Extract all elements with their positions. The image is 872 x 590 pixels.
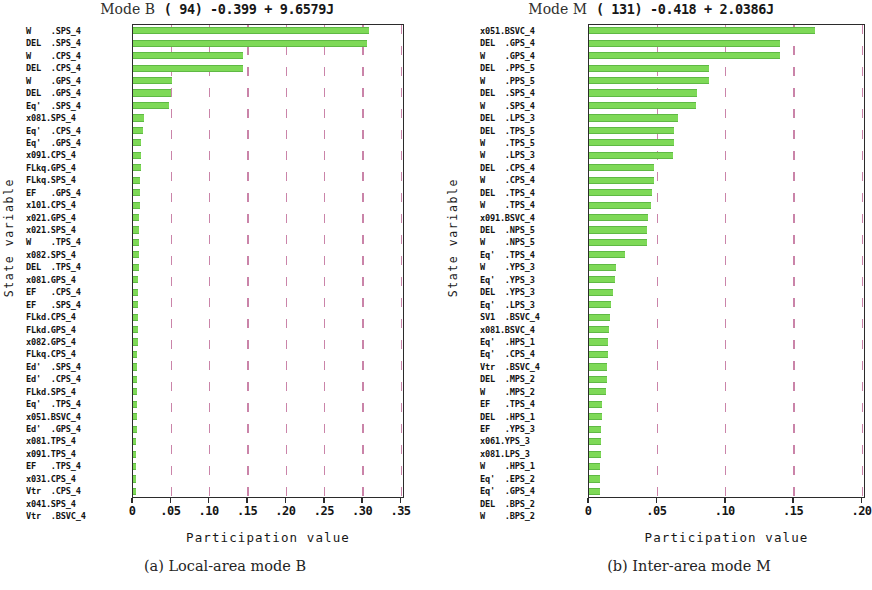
- y-axis-tick-label: x101.CPS_4: [26, 199, 128, 211]
- bar: [133, 451, 136, 458]
- y-axis-tick-label: x041.SPS_4: [26, 498, 128, 510]
- y-axis-tick-label: FLkq.SPS_4: [26, 174, 128, 186]
- bar: [133, 114, 144, 121]
- y-axis-tick-label: DEL .GPS_4: [480, 37, 584, 49]
- y-axis-tick-label: DEL .SPS_4: [480, 87, 584, 99]
- bar: [133, 52, 243, 59]
- bar: [133, 226, 139, 233]
- plot-title-eigenvalue-b: ( 131) -0.418 + 2.0386J: [596, 1, 774, 17]
- x-axis-tick-label: .20: [851, 504, 871, 518]
- x-axis-tick: [792, 498, 794, 503]
- y-axis-tick-label: Vtr .BSVC_4: [26, 510, 128, 522]
- plot-area-a: [132, 24, 404, 498]
- y-axis-tick-label: DEL .TPS_4: [26, 261, 128, 273]
- bar: [133, 301, 138, 308]
- y-axis-tick-label: Eq' .TPS_4: [480, 249, 584, 261]
- bar: [589, 139, 674, 146]
- x-axis-tick: [361, 498, 363, 503]
- y-axis-tick-label: DEL .CPS_4: [26, 62, 128, 74]
- y-axis-tick-label: W .TPS_4: [480, 199, 584, 211]
- bar: [133, 413, 137, 420]
- y-axis-tick-label: x082.SPS_4: [26, 249, 128, 261]
- y-axis-tick-label: Eq' .CPS_4: [26, 125, 128, 137]
- x-axis-title-b: Participation value: [588, 530, 865, 545]
- x-axis-tick-label: .15: [783, 504, 803, 518]
- bar: [133, 276, 138, 283]
- y-axis-tick-label: FLkd.GPS_4: [26, 324, 128, 336]
- y-axis-tick-label: Eq' .CPS_4: [480, 348, 584, 360]
- y-axis-tick-label: W .GPS_4: [480, 50, 584, 62]
- bar: [133, 251, 139, 258]
- x-axis-tick: [131, 498, 133, 503]
- bar: [589, 77, 709, 84]
- y-axis-tick-label: EF .TPS_4: [480, 398, 584, 410]
- x-axis-tick: [861, 498, 863, 503]
- y-axis-tick-label: FLkq.GPS_4: [26, 162, 128, 174]
- bar: [589, 89, 697, 96]
- y-axis-tick-label: W .LPS_3: [480, 149, 584, 161]
- plot-title-mode-b: Mode M: [528, 1, 587, 17]
- y-axis-tick-label: W .TPS_4: [26, 236, 128, 248]
- y-axis-tick-label: DEL .SPS_4: [26, 37, 128, 49]
- y-axis-tick-label: W .TPS_5: [480, 137, 584, 149]
- y-axis-tick-label: EF .SPS_4: [26, 299, 128, 311]
- panel-inter-area-mode-m: Mode M ( 131) -0.418 + 2.0386J State var…: [434, 0, 868, 590]
- y-axis-tick-label: Ed' .SPS_4: [26, 361, 128, 373]
- y-axis-tick-label: W .SPS_4: [480, 100, 584, 112]
- bar: [589, 164, 654, 171]
- y-axis-tick-label: Ed' .CPS_4: [26, 373, 128, 385]
- y-axis-tick-label: EF .TPS_4: [26, 460, 128, 472]
- bars-b: [589, 25, 864, 497]
- y-axis-tick-label: DEL .GPS_4: [26, 87, 128, 99]
- bar: [133, 376, 137, 383]
- bar: [589, 214, 648, 221]
- bar: [589, 264, 616, 271]
- x-axis-tick: [170, 498, 172, 503]
- x-axis-tick-label: 0: [585, 504, 592, 518]
- bar: [589, 376, 607, 383]
- y-axis-tick-label: W .NPS_5: [480, 236, 584, 248]
- x-axis-tick-label: .15: [237, 504, 257, 518]
- bar: [589, 114, 678, 121]
- bar: [133, 401, 137, 408]
- y-axis-tick-label: W .HPS_1: [480, 460, 584, 472]
- y-axis-tick-label: DEL .BPS_2: [480, 498, 584, 510]
- y-axis-tick-label: Eq' .TPS_4: [26, 398, 128, 410]
- bar: [133, 102, 169, 109]
- bar: [589, 52, 780, 59]
- y-axis-tick-label: x021.GPS_4: [26, 212, 128, 224]
- bar: [133, 77, 172, 84]
- bar: [589, 127, 674, 134]
- y-axis-title-a: State variable: [2, 178, 16, 297]
- x-axis-tick: [323, 498, 325, 503]
- bar: [589, 463, 600, 470]
- y-axis-tick-label: W .PPS_5: [480, 75, 584, 87]
- y-axis-tick-label: Eq' .YPS_3: [480, 274, 584, 286]
- y-axis-tick-label: SV1 .BSVC_4: [480, 311, 584, 323]
- y-axis-tick-label: x081.TPS_4: [26, 435, 128, 447]
- bar: [133, 351, 137, 358]
- y-axis-tick-label: W .MPS_2: [480, 386, 584, 398]
- x-axis-tick-label: 0: [129, 504, 136, 518]
- y-axis-tick-label: x091.TPS_4: [26, 448, 128, 460]
- bar: [589, 65, 709, 72]
- y-axis-tick-label: x051.BSVC_4: [26, 411, 128, 423]
- bar: [133, 426, 137, 433]
- x-axis-a: 0.05.10.15.20.25.30.35: [132, 497, 404, 498]
- y-axis-tick-label: DEL .MPS_2: [480, 373, 584, 385]
- y-axis-tick-label: FLkd.CPS_4: [26, 311, 128, 323]
- plot-title-b: Mode M ( 131) -0.418 + 2.0386J: [434, 1, 868, 17]
- caption-b: (b) Inter-area mode M: [524, 558, 854, 574]
- y-axis-tick-label: x021.SPS_4: [26, 224, 128, 236]
- bar: [133, 326, 138, 333]
- plot-area-b: [588, 24, 865, 498]
- bar: [589, 363, 607, 370]
- y-axis-tick-label: Vtr .BSVC_4: [480, 361, 584, 373]
- y-axis-tick-label: DEL .NPS_5: [480, 224, 584, 236]
- x-axis-b: 0.05.10.15.20: [588, 497, 865, 498]
- y-axis-tick-label: W .SPS_4: [26, 25, 128, 37]
- bar: [133, 127, 143, 134]
- y-axis-tick-label: x081.BSVC_4: [480, 324, 584, 336]
- x-axis-tick: [587, 498, 589, 503]
- y-axis-tick-label: DEL .PPS_5: [480, 62, 584, 74]
